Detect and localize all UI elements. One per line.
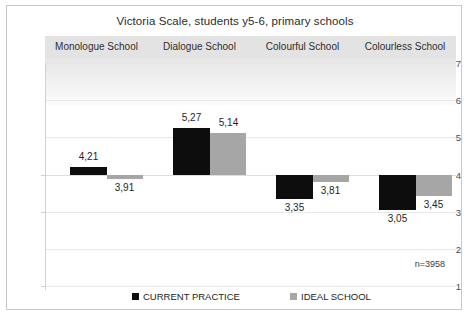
bar-value-ideal-school-monologue-school: 3,91 xyxy=(98,182,151,193)
legend-label-ideal-school: IDEAL SCHOOL xyxy=(301,291,371,302)
bar-current-practice-dialogue-school[interactable] xyxy=(173,128,210,175)
bar-value-current-practice-monologue-school: 4,21 xyxy=(62,151,115,162)
chart-title: Victoria Scale, students y5-6, primary s… xyxy=(7,15,463,27)
y-tick-label-6: 6 xyxy=(435,95,461,106)
y-tick-label-2: 2 xyxy=(435,244,461,255)
chart-screenshot: Victoria Scale, students y5-6, primary s… xyxy=(0,0,469,317)
y-tick-label-3: 3 xyxy=(435,207,461,218)
chart-legend: CURRENT PRACTICE IDEAL SCHOOL xyxy=(7,290,463,310)
gridline-2 xyxy=(45,249,456,250)
y-tick-label-4: 4 xyxy=(435,170,461,181)
bar-ideal-school-dialogue-school[interactable] xyxy=(210,133,246,175)
y-axis-line xyxy=(45,63,46,290)
bar-value-current-practice-colourful-school: 3,35 xyxy=(268,202,321,213)
gridline-6 xyxy=(45,100,456,101)
gridline-1 xyxy=(45,286,456,287)
legend-swatch-gray-icon xyxy=(290,293,297,300)
bar-ideal-school-monologue-school[interactable] xyxy=(107,175,143,179)
bar-value-current-practice-colourless-school: 3,05 xyxy=(371,213,424,224)
y-tick-mark-3 xyxy=(41,212,46,213)
legend-swatch-black-icon xyxy=(132,293,139,300)
y-tick-label-5: 5 xyxy=(435,132,461,143)
category-label-colourless-school: Colourless School xyxy=(354,36,456,58)
legend-item-current-practice[interactable]: CURRENT PRACTICE xyxy=(132,290,240,304)
bar-current-practice-monologue-school[interactable] xyxy=(70,167,107,175)
gridline-5 xyxy=(45,137,456,138)
legend-label-current-practice: CURRENT PRACTICE xyxy=(143,291,240,302)
category-header-band: Monologue School Dialogue School Colourf… xyxy=(45,36,456,58)
plot-top-shading xyxy=(45,58,456,105)
bar-value-ideal-school-dialogue-school: 5,14 xyxy=(202,117,255,128)
bar-value-ideal-school-colourful-school: 3,81 xyxy=(304,185,357,196)
y-tick-label-7: 7 xyxy=(435,58,461,69)
plot-area: 4,21 3,91 5,27 5,14 3,35 3,81 3,05 3,45 xyxy=(45,58,456,290)
y-tick-mark-4 xyxy=(41,175,46,176)
category-label-colourful-school: Colourful School xyxy=(251,36,354,58)
bar-ideal-school-colourful-school[interactable] xyxy=(313,175,349,182)
y-tick-mark-1 xyxy=(41,286,46,287)
category-label-monologue-school: Monologue School xyxy=(45,36,148,58)
legend-item-ideal-school[interactable]: IDEAL SCHOOL xyxy=(290,290,371,304)
category-label-dialogue-school: Dialogue School xyxy=(148,36,251,58)
chart-frame: Victoria Scale, students y5-6, primary s… xyxy=(6,5,462,310)
sample-size-annotation: n=3958 xyxy=(415,259,445,269)
gridline-7 xyxy=(45,63,456,64)
